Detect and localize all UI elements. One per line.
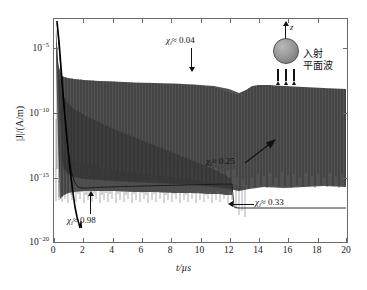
annotation-chi-033-arrow-head: [228, 201, 233, 207]
arrow-shaft: [293, 69, 295, 81]
ytick-label-1e-20: 10−20: [14, 235, 49, 247]
z-axis-label: z: [290, 23, 293, 32]
annotation-chi-098-text: ≈ 0.98: [73, 215, 96, 225]
xtick-label-0: 0: [51, 245, 56, 255]
y-axis-title: |J|/(A/m): [14, 59, 25, 189]
x-axis-title-var: t/µs: [176, 262, 191, 273]
sphere-scatterer: [273, 38, 299, 64]
incident-wave-label-line2: 平面波: [303, 60, 333, 71]
tick-x-12: [230, 238, 231, 242]
tick-x-10: [201, 238, 202, 242]
xtick-label-20: 20: [341, 245, 351, 255]
arrow-head-icon: [292, 81, 296, 85]
annotation-chi-004-text: ≈ 0.04: [172, 35, 195, 45]
figure-root: χi≈ 0.04 χi≈ 0.25 χi≈ 0.33 χi≈ 0.98 z: [0, 0, 367, 290]
arrow-head-icon: [284, 81, 288, 85]
tick-x-6: [142, 238, 143, 242]
x-axis-title: t/µs: [0, 262, 367, 273]
tick-y-right-1e-15: [343, 178, 347, 179]
tick-x-top-4: [113, 19, 114, 23]
incident-wave-label-line1: 入射: [303, 48, 323, 59]
tick-x-4: [113, 238, 114, 242]
tick-x-2: [83, 238, 84, 242]
tick-x-top-12: [230, 19, 231, 23]
annotation-chi-025-label: χi≈ 0.25: [206, 156, 235, 167]
annotation-chi-033-text: ≈ 0.33: [261, 197, 284, 207]
tick-x-top-8: [171, 19, 172, 23]
arrow-shaft: [277, 69, 279, 81]
tick-x-14: [259, 238, 260, 242]
annotation-chi-033-label: χi≈ 0.33: [255, 197, 284, 208]
tick-x-top-6: [142, 19, 143, 23]
tick-y-1e-15: [54, 178, 58, 179]
y-axis-title-text: |J|/(A/m): [14, 106, 25, 141]
plot-area: χi≈ 0.04 χi≈ 0.25 χi≈ 0.33 χi≈ 0.98 z: [53, 18, 348, 243]
tick-y-1e-20: [54, 242, 58, 243]
tick-x-top-10: [201, 19, 202, 23]
arrow-head-icon: [276, 81, 280, 85]
xtick-label-2: 2: [80, 245, 85, 255]
xtick-label-10: 10: [195, 245, 205, 255]
tick-x-18: [318, 238, 319, 242]
xtick-label-18: 18: [312, 245, 322, 255]
annotation-chi-025-text: ≈ 0.25: [212, 156, 235, 166]
ytick-label-1e-5: 10−5: [18, 41, 49, 53]
xtick-label-14: 14: [253, 245, 263, 255]
tick-y-1e-10: [54, 113, 58, 114]
xtick-label-4: 4: [109, 245, 114, 255]
tick-x-16: [288, 238, 289, 242]
annotation-chi-098-arrow-shaft: [90, 195, 91, 214]
tick-y-1e-5: [54, 48, 58, 49]
annotation-chi-004-label: χi≈ 0.04: [166, 35, 195, 46]
z-axis-line: [285, 25, 286, 39]
tick-x-20: [346, 238, 347, 242]
annotation-chi-033-arrow-shaft: [232, 204, 254, 205]
tick-y-right-1e-10: [343, 113, 347, 114]
tick-x-top-2: [83, 19, 84, 23]
arrow-shaft: [285, 69, 287, 81]
xtick-label-12: 12: [224, 245, 234, 255]
xtick-label-8: 8: [168, 245, 173, 255]
annotation-chi-098-label: χi≈ 0.98: [67, 215, 96, 226]
xtick-label-16: 16: [283, 245, 293, 255]
inset-scattering-geometry: z 入射 平面波: [259, 21, 345, 87]
annotation-chi-004-arrow-shaft: [191, 48, 192, 69]
annotation-chi-025-arrow: [244, 137, 278, 165]
xtick-label-6: 6: [139, 245, 144, 255]
tick-x-8: [171, 238, 172, 242]
annotation-chi-004-arrow-head: [189, 67, 195, 72]
annotation-chi-098-arrow-head: [88, 191, 94, 196]
